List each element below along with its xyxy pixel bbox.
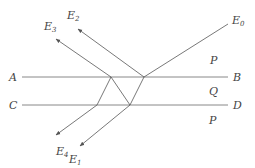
ray-E2 <box>78 29 144 77</box>
label-E4: E4 <box>55 145 69 159</box>
ray-inside-2 <box>111 77 130 105</box>
ray-E1 <box>80 105 130 146</box>
label-Q: Q <box>209 85 218 98</box>
ray-E3 <box>56 39 111 77</box>
label-C: C <box>9 99 18 112</box>
label-E2: E2 <box>66 9 80 23</box>
ray-inside-3 <box>97 77 111 105</box>
label-B: B <box>232 71 241 84</box>
ray-inside-1 <box>130 77 144 105</box>
ray-E0-incident <box>144 24 228 77</box>
label-E1: E1 <box>68 153 82 167</box>
label-A: A <box>8 71 17 84</box>
ray-E4 <box>56 105 97 135</box>
label-E3: E3 <box>43 20 57 34</box>
label-P-bottom: P <box>208 114 217 127</box>
label-D: D <box>232 99 242 112</box>
ray-diagram: A B C D P Q P E0 E2 E3 E4 E1 <box>0 0 255 168</box>
label-E0: E0 <box>231 14 245 28</box>
label-P-top: P <box>209 54 218 67</box>
